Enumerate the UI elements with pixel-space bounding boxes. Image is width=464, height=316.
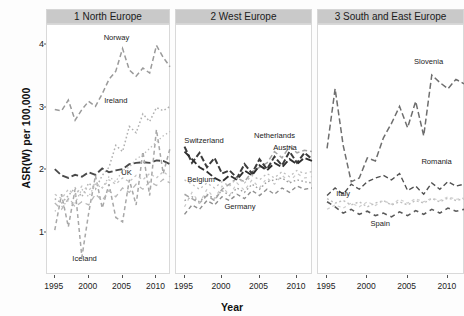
series-line (55, 130, 170, 257)
plot-area: NorwayIrelandUKIceland (46, 24, 170, 274)
panel-north-europe: 1 North EuropeNorwayIrelandUKIceland (46, 9, 170, 24)
x-tick-mark (259, 275, 260, 278)
series-label: Netherlands (254, 131, 295, 140)
x-tick-label: 2000 (357, 281, 376, 291)
x-tick-mark (184, 275, 185, 278)
plot-area: SloveniaRomaniaItalySpain (317, 24, 464, 274)
x-tick-mark (407, 275, 408, 278)
y-tick-label: 1 (22, 227, 44, 237)
x-tick-label: 2000 (78, 281, 97, 291)
series-label: Ireland (104, 96, 127, 105)
series-line (55, 45, 170, 120)
panel-west-europe: 2 West EuropeNetherlandsSwitzerlandAustr… (175, 9, 312, 24)
series-label: Belgium (187, 175, 214, 184)
series-label: Germany (224, 202, 255, 211)
x-tick-label: 2010 (146, 281, 165, 291)
x-tick-mark (296, 275, 297, 278)
x-tick-label: 2005 (112, 281, 131, 291)
series-label: UK (121, 168, 132, 177)
panel-strip-label: 1 North Europe (46, 9, 170, 24)
series-label: Italy (336, 189, 350, 198)
series-line (55, 106, 170, 203)
y-axis-title: ASR(W) per 100,000 (20, 68, 32, 208)
x-tick-label: 2010 (287, 281, 306, 291)
x-tick-label: 2010 (437, 281, 456, 291)
x-tick-label: 2005 (249, 281, 268, 291)
chart-figure: 1234 ASR(W) per 100,000 Year 1 North Eur… (0, 0, 464, 316)
x-tick-mark (88, 275, 89, 278)
x-tick-mark (155, 275, 156, 278)
x-tick-label: 2000 (212, 281, 231, 291)
y-tick-label: 4 (22, 39, 44, 49)
series-label: Spain (370, 219, 389, 228)
x-tick-label: 1995 (317, 281, 336, 291)
series-label: Switzerland (184, 136, 223, 145)
x-tick-mark (326, 275, 327, 278)
x-axis-title: Year (0, 301, 464, 313)
series-line (327, 198, 464, 207)
x-axis: 1995200020052010 (46, 275, 170, 297)
x-tick-mark (447, 275, 448, 278)
series-label: Slovenia (414, 57, 444, 66)
x-axis: 1995200020052010 (175, 275, 312, 297)
plot-area: NetherlandsSwitzerlandAustriaBelgiumGerm… (175, 24, 312, 274)
series-label: Norway (104, 33, 130, 42)
panel-south-east-europe: 3 South and East EuropeSloveniaRomaniaIt… (317, 9, 464, 24)
x-axis: 1995200020052010 (317, 275, 464, 297)
series-label: Austria (273, 143, 297, 152)
series-line (327, 202, 464, 217)
x-tick-mark (221, 275, 222, 278)
series-label: Iceland (72, 254, 97, 263)
panel-strip-label: 2 West Europe (175, 9, 312, 24)
x-tick-label: 1995 (174, 281, 193, 291)
x-tick-mark (122, 275, 123, 278)
x-tick-mark (54, 275, 55, 278)
x-tick-mark (366, 275, 367, 278)
series-label: Romania (421, 157, 452, 166)
x-tick-label: 2005 (397, 281, 416, 291)
panel-strip-label: 3 South and East Europe (317, 9, 464, 24)
x-tick-label: 1995 (44, 281, 63, 291)
